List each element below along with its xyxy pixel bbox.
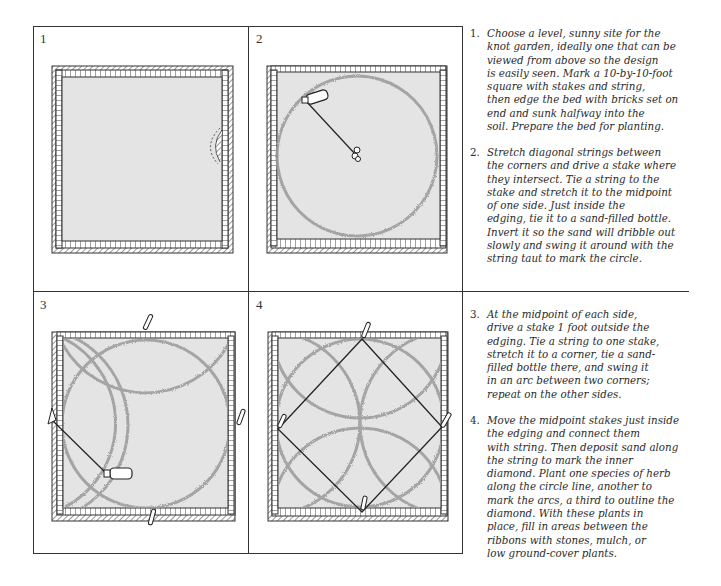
- step-4: 4. Move the midpoint stakes just inside …: [468, 414, 716, 560]
- stake-icon-top: [143, 314, 153, 330]
- step-3: 3. At the midpoint of each side, drive a…: [468, 308, 716, 401]
- panel-3-arc-marking: [0, 314, 246, 525]
- step-2-text: Stretch diagonal strings between the cor…: [487, 146, 716, 266]
- sand-bottle-icon: [104, 468, 132, 479]
- step-4-text: Move the midpoint stakes just inside the…: [487, 414, 716, 560]
- stake-icon-right: [236, 409, 245, 425]
- step-1-text: Choose a level, sunny site for the knot …: [487, 27, 716, 133]
- panel-2-circle-marking: [267, 66, 447, 253]
- step-3-number: 3.: [470, 308, 480, 321]
- step-3-text: At the midpoint of each side, drive a st…: [487, 308, 716, 401]
- step-1-number: 1.: [470, 27, 480, 40]
- step-4-number: 4.: [470, 414, 480, 427]
- step-2: 2. Stretch diagonal strings between the …: [468, 146, 716, 266]
- panel-1-brick-bed: [52, 66, 233, 253]
- step-2-number: 2.: [470, 146, 480, 159]
- step-1: 1. Choose a level, sunny site for the kn…: [468, 27, 716, 133]
